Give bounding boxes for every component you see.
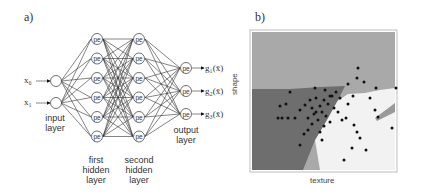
x-axis-label: texture: [310, 176, 334, 185]
svg-text:pe: pe: [93, 114, 101, 122]
svg-text:pe: pe: [182, 65, 190, 73]
svg-text:pe: pe: [93, 55, 101, 63]
input-layer-label: input layer: [30, 113, 80, 133]
y-axis-label: shape: [230, 73, 239, 95]
svg-text:pe: pe: [135, 55, 143, 63]
output-layer-label: output layer: [161, 125, 211, 145]
svg-text:pe: pe: [93, 75, 101, 83]
svg-text:pe: pe: [93, 94, 101, 102]
svg-text:pe: pe: [135, 133, 143, 141]
decision-region-plot: b) texture shape: [220, 0, 441, 195]
svg-text:pe: pe: [93, 36, 101, 44]
svg-text:pe: pe: [182, 111, 190, 119]
neural-network-diagram: a) pepepepepepepepepepepepepepepe x₀ x₁ …: [0, 0, 220, 195]
input-x0: x₀: [24, 75, 32, 85]
svg-text:pe: pe: [135, 36, 143, 44]
svg-text:pe: pe: [135, 114, 143, 122]
svg-text:pe: pe: [135, 75, 143, 83]
second-hidden-layer-label: second hidden layer: [114, 155, 164, 185]
input-node: [51, 98, 62, 109]
decision-regions: [220, 0, 441, 195]
input-node: [51, 76, 62, 87]
svg-text:pe: pe: [93, 133, 101, 141]
svg-text:pe: pe: [182, 88, 190, 96]
svg-text:pe: pe: [135, 94, 143, 102]
input-x1: x₁: [24, 97, 32, 107]
